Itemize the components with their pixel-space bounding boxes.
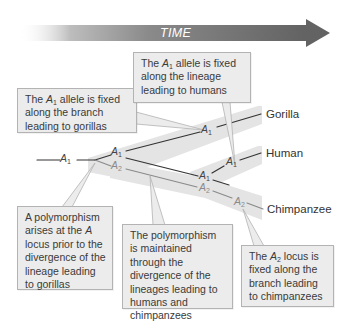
allele-label-hc-lower: A2 bbox=[199, 181, 210, 193]
taxon-human: Human bbox=[266, 147, 303, 159]
allele-label-chimp-branch: A2 bbox=[234, 195, 245, 207]
taxon-gorilla: Gorilla bbox=[266, 108, 299, 120]
callout-polymorphism-maintained: The polymorphism is maintained through t… bbox=[122, 224, 233, 309]
allele-label-root: A1 bbox=[60, 152, 71, 164]
callout-polymorphism-arises: A polymorphism arises at the A locus pri… bbox=[17, 206, 113, 290]
callout-chimp-fixed: The A2 locus is fixed along the branch l… bbox=[241, 245, 334, 307]
callout-gorilla-fixed: The A1 allele is fixed along the branch … bbox=[17, 88, 137, 133]
pointer-gorilla bbox=[136, 112, 204, 130]
time-arrow-label: TIME bbox=[160, 26, 191, 40]
callout-human-fixed: The A1 allele is fixed along the lineage… bbox=[133, 52, 251, 103]
pointer-arises bbox=[62, 163, 95, 207]
taxon-chimpanzee: Chimpanzee bbox=[267, 203, 332, 215]
allele-label-fork-upper: A1 bbox=[111, 145, 122, 157]
allele-label-hc-upper: A1 bbox=[199, 169, 210, 181]
allele-label-human-branch: A1 bbox=[226, 155, 237, 167]
allele-label-gorilla-branch: A1 bbox=[201, 123, 212, 135]
allele-label-fork-lower: A2 bbox=[111, 159, 122, 171]
